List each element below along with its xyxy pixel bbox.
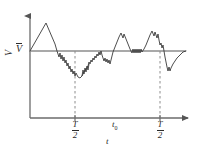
plot-canvas	[0, 0, 200, 154]
tick-left-numerator: T	[67, 120, 83, 129]
mean-value-label-text: V	[16, 43, 22, 55]
interval-label-subscript: 0	[115, 125, 118, 131]
y-axis-label: V	[4, 50, 14, 56]
signal-waveform-figure: V V T 2 T 2 t0 t	[0, 0, 200, 154]
x-tick-label-left: T 2	[67, 120, 83, 140]
x-axis-label: t	[106, 137, 109, 146]
tick-left-denominator: 2	[67, 131, 83, 140]
tick-right-denominator: 2	[152, 131, 168, 140]
x-tick-label-right: T 2	[152, 120, 168, 140]
mean-value-label: V	[16, 43, 22, 55]
interval-label: t0	[112, 120, 118, 131]
tick-right-numerator: T	[152, 120, 168, 129]
